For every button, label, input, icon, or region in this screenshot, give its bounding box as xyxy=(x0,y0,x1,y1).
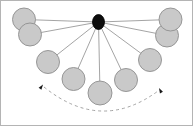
radial-node-diagram xyxy=(0,0,193,126)
node-circle-upper-left-inner[interactable] xyxy=(19,23,42,46)
node-circle-upper-right-outer[interactable] xyxy=(159,8,182,31)
node-circle-mid-right[interactable] xyxy=(139,49,162,72)
diagram-canvas xyxy=(0,0,193,126)
pivot-node[interactable] xyxy=(93,15,105,30)
node-circle-lower-right[interactable] xyxy=(115,69,138,92)
node-circle-lower-left[interactable] xyxy=(62,68,85,91)
node-circle-bottom-center[interactable] xyxy=(88,81,112,105)
node-circle-mid-left[interactable] xyxy=(37,51,60,74)
hub-layer xyxy=(93,15,105,30)
